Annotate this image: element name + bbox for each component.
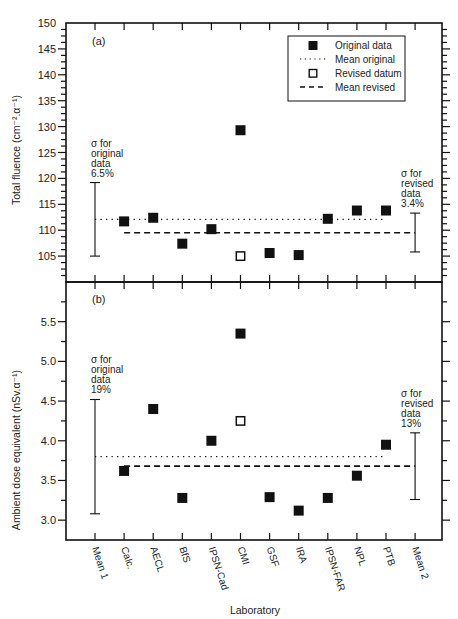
x-category-label: GSF	[265, 545, 282, 568]
original-data-marker	[381, 440, 391, 450]
x-axis-category-labels: Mean 1Calc.AECLBfSIPSN-CadCMIGSFIRAIPSN-…	[90, 545, 431, 592]
original-data-marker	[177, 239, 187, 249]
x-axis-title: Laboratory	[230, 604, 281, 616]
x-category-label: Mean 2	[410, 545, 431, 581]
original-data-marker	[265, 248, 275, 258]
original-data-marker	[323, 493, 333, 503]
y-axis-title: Total fluence (cm⁻².α⁻¹)	[10, 95, 22, 205]
original-data-marker	[148, 404, 158, 414]
original-data-marker	[352, 206, 362, 216]
y-tick-label: 3.5	[41, 474, 56, 486]
sigma-annotation: 3.4%	[401, 198, 424, 209]
x-category-label: PTB	[381, 545, 398, 567]
panel-label: (b)	[92, 293, 105, 305]
y-tick-label: 3.0	[41, 514, 56, 526]
legend-filled-square-icon	[309, 41, 318, 50]
x-category-label: BfS	[177, 545, 193, 564]
original-data-marker	[294, 250, 304, 260]
panel-b-ambient-dose-equivalent: 3.03.54.04.55.05.5(b)Ambient dose equiva…	[10, 282, 450, 540]
y-axis-title: Ambient dose equivalent (nSv.α⁻¹)	[10, 370, 22, 530]
y-tick-label: 4.5	[41, 395, 56, 407]
legend-label-original: Original data	[335, 40, 392, 51]
y-tick-label: 4.0	[41, 435, 56, 447]
original-data-marker	[323, 214, 333, 224]
original-data-marker	[294, 506, 304, 516]
revised-datum-marker	[236, 417, 244, 425]
x-category-label: NPL	[352, 545, 369, 567]
y-tick-label: 105	[38, 250, 56, 262]
x-category-label: IPSN-FAR	[323, 545, 348, 592]
original-data-marker	[236, 329, 246, 339]
original-data-marker	[148, 213, 158, 223]
legend-label-mean-revised: Mean revised	[335, 82, 395, 93]
original-data-marker	[265, 492, 275, 502]
legend-label-revised: Revised datum	[335, 68, 402, 79]
original-data-marker	[236, 125, 246, 135]
x-category-label: CMI	[236, 545, 252, 566]
two-panel-scatter-chart: 105110115120125130135140145150(a)Total f…	[0, 0, 458, 619]
x-category-label: Mean 1	[90, 545, 111, 581]
y-tick-label: 120	[38, 172, 56, 184]
y-tick-label: 115	[38, 198, 56, 210]
original-data-marker	[119, 216, 129, 226]
original-data-marker	[206, 224, 216, 234]
x-category-label: Calc.	[119, 545, 137, 570]
legend: Original dataMean originalRevised datumM…	[288, 36, 405, 101]
original-data-marker	[381, 206, 391, 216]
original-data-marker	[119, 466, 129, 476]
y-tick-label: 135	[38, 95, 56, 107]
x-category-label: IRA	[294, 545, 310, 565]
panel-label: (a)	[92, 35, 105, 47]
original-data-marker	[206, 436, 216, 446]
plot-frame	[66, 282, 442, 540]
original-data-marker	[352, 471, 362, 481]
y-tick-label: 150	[38, 17, 56, 29]
x-category-label: AECL	[148, 545, 167, 574]
sigma-annotation: 19%	[91, 384, 111, 395]
original-data-marker	[177, 493, 187, 503]
legend-open-square-icon	[309, 70, 317, 78]
y-tick-label: 140	[38, 69, 56, 81]
y-tick-label: 5.0	[41, 355, 56, 367]
revised-datum-marker	[236, 252, 244, 260]
panel-a-total-fluence: 105110115120125130135140145150(a)Total f…	[10, 17, 450, 282]
y-tick-label: 110	[38, 224, 56, 236]
legend-label-mean-original: Mean original	[335, 54, 395, 65]
sigma-annotation: 13%	[401, 418, 421, 429]
y-tick-label: 125	[38, 147, 56, 159]
y-tick-label: 130	[38, 121, 56, 133]
y-tick-label: 5.5	[41, 316, 56, 328]
y-tick-label: 145	[38, 43, 56, 55]
x-category-label: IPSN-Cad	[206, 545, 230, 591]
sigma-annotation: 6.5%	[91, 168, 114, 179]
